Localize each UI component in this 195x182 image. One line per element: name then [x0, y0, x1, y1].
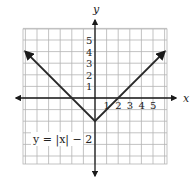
y-tick-label: 3 — [86, 58, 92, 69]
coordinate-graph: 12345 12345 x y y = |x| − 2 — [0, 0, 195, 182]
y-tick-label: 4 — [86, 47, 92, 58]
x-axis-label: x — [183, 92, 190, 105]
x-tick-label: 5 — [150, 100, 156, 111]
x-tick-label: 4 — [138, 100, 144, 111]
x-tick-label: 3 — [127, 100, 133, 111]
y-tick-label: 2 — [86, 70, 92, 81]
equation-label: y = |x| − 2 — [32, 133, 92, 147]
y-tick-label: 5 — [86, 35, 92, 46]
y-tick-label: 1 — [86, 81, 92, 92]
x-tick-label: 2 — [115, 100, 121, 111]
y-axis-label: y — [92, 3, 100, 16]
x-tick-label: 1 — [104, 100, 110, 111]
y-tick-labels: 12345 — [86, 35, 92, 92]
